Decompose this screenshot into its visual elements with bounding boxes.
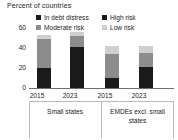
- legend-row-1: In debt distress High risk: [36, 12, 176, 22]
- segment-low-risk: [139, 46, 153, 53]
- x-tick-label-small-2023: 2023: [55, 92, 85, 99]
- x-tick-label-small-2015: 2015: [22, 92, 52, 99]
- segment-low-risk: [105, 46, 119, 54]
- percent-of-countries-chart: Percent of countries In debt distress Hi…: [0, 0, 178, 140]
- group-top-rule: [29, 101, 174, 102]
- bar-small-states-2015[interactable]: [37, 35, 51, 88]
- y-tick-label-0: 0: [10, 84, 26, 91]
- segment-in-debt-distress: [70, 47, 84, 88]
- segment-moderate-risk: [37, 39, 51, 67]
- bar-emdes-2023[interactable]: [139, 46, 153, 88]
- legend-item-high-risk[interactable]: High risk: [102, 14, 136, 21]
- y-tick-label-20: 20: [10, 64, 26, 71]
- legend-label-high-risk: High risk: [110, 14, 136, 21]
- legend-item-in-debt-distress[interactable]: In debt distress: [36, 14, 102, 21]
- y-tick-label-40: 40: [10, 44, 26, 51]
- square-marker-icon: [36, 15, 41, 20]
- group-divider-left: [29, 101, 30, 138]
- bar-small-states-2023[interactable]: [70, 32, 84, 88]
- square-marker-icon: [102, 15, 107, 20]
- x-axis-baseline: [29, 88, 174, 89]
- segment-in-debt-distress: [105, 78, 119, 88]
- group-label-emdes: EMDEs excl. small states: [101, 108, 174, 125]
- segment-in-debt-distress: [139, 67, 153, 88]
- segment-moderate-risk: [70, 36, 84, 47]
- segment-moderate-risk: [139, 53, 153, 66]
- plot-area: [29, 27, 174, 88]
- legend-label-in-debt-distress: In debt distress: [44, 14, 89, 21]
- y-tick-label-60: 60: [10, 24, 26, 31]
- segment-moderate-risk: [105, 54, 119, 77]
- y-axis: 60 40 20 0: [5, 0, 26, 140]
- bar-emdes-2015[interactable]: [105, 46, 119, 88]
- group-label-small-states: Small states: [29, 108, 101, 117]
- segment-in-debt-distress: [37, 68, 51, 88]
- x-tick-label-emdes-2023: 2023: [124, 92, 154, 99]
- x-tick-label-emdes-2015: 2015: [90, 92, 120, 99]
